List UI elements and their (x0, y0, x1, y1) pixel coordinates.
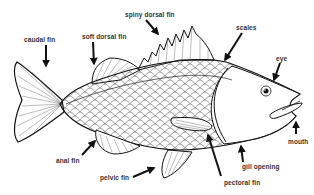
label-pectoral-fin: pectoral fin (224, 179, 260, 186)
fish-anatomy-diagram: caudal fin soft dorsal fin spiny dorsal … (0, 0, 314, 195)
label-spiny-dorsal-fin: spiny dorsal fin (125, 11, 175, 18)
label-scales: scales (236, 24, 256, 31)
label-mouth: mouth (288, 138, 308, 145)
label-gill-opening: gill opening (242, 163, 280, 170)
label-eye: eye (276, 55, 287, 62)
label-pelvic-fin: pelvic fin (100, 174, 129, 181)
label-caudal-fin: caudal fin (24, 36, 55, 43)
caudal-fin-shape (14, 62, 64, 142)
label-soft-dorsal-fin: soft dorsal fin (82, 33, 126, 40)
label-anal-fin: anal fin (56, 157, 80, 164)
